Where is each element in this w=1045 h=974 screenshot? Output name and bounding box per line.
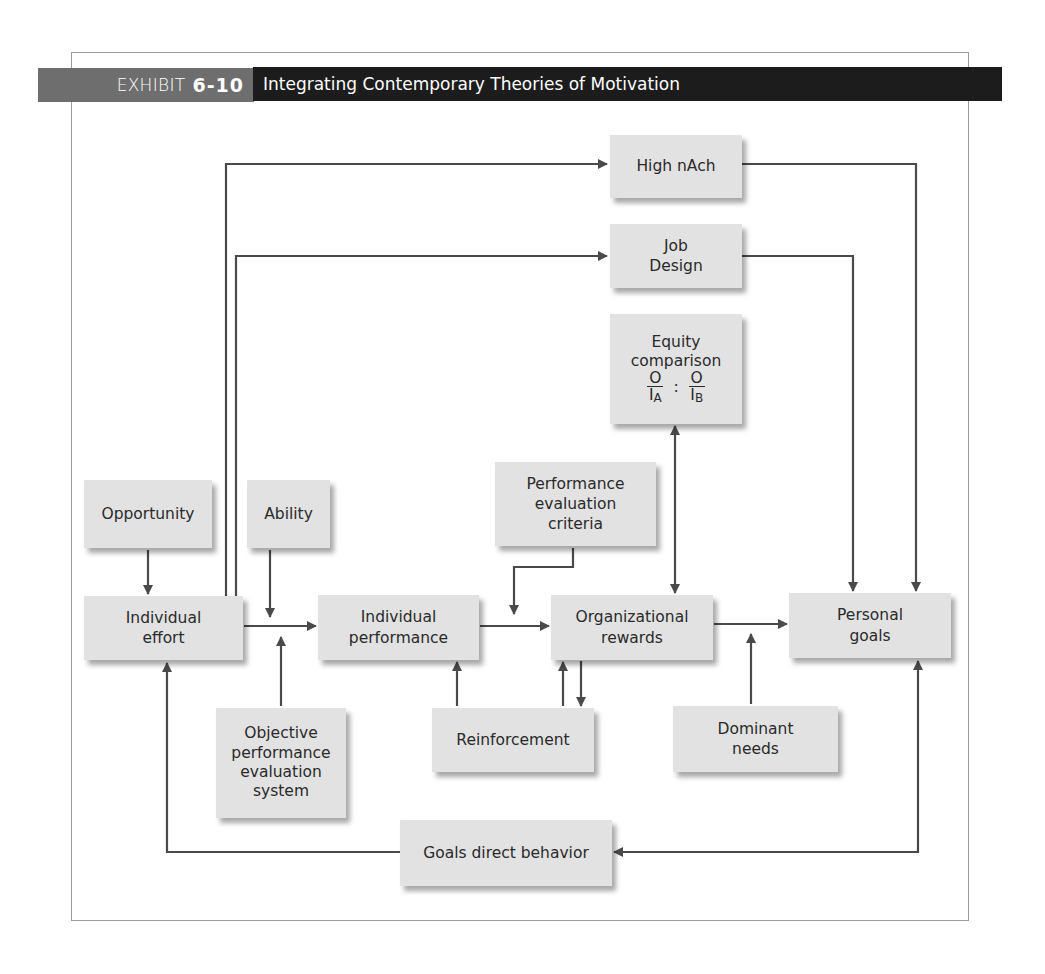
node-organizational-rewards: Organizational rewards xyxy=(551,595,713,660)
node-equity-comparison: Equity comparison O IA : O IB xyxy=(610,314,742,424)
node-label: evaluation xyxy=(535,494,617,514)
node-ability: Ability xyxy=(247,480,330,548)
node-label: rewards xyxy=(601,628,663,648)
fraction-a: O IA xyxy=(647,370,663,405)
node-personal-goals: Personal goals xyxy=(789,593,951,658)
node-job-design: Job Design xyxy=(610,224,742,288)
node-label: Opportunity xyxy=(101,504,194,524)
node-dominant-needs: Dominant needs xyxy=(673,706,838,772)
ratio-separator: : xyxy=(673,378,678,397)
node-label: Job xyxy=(664,236,688,256)
node-label: Equity xyxy=(651,333,700,352)
node-label: Performance xyxy=(526,474,624,494)
subscript-b: B xyxy=(695,391,703,405)
equity-formula: O IA : O IB xyxy=(643,370,709,405)
node-reinforcement: Reinforcement xyxy=(432,708,594,772)
node-label: comparison xyxy=(631,352,722,371)
node-label: system xyxy=(253,782,309,801)
node-label: performance xyxy=(231,744,330,763)
edge-jobdesign-goals xyxy=(742,256,853,591)
node-high-nach: High nAch xyxy=(610,135,742,198)
node-label: Goals direct behavior xyxy=(423,843,589,863)
numerator-b: O xyxy=(689,370,705,387)
fraction-b: O IB xyxy=(689,370,705,405)
node-label: Reinforcement xyxy=(456,730,569,750)
node-performance-evaluation-criteria: Performance evaluation criteria xyxy=(495,462,656,546)
node-label: evaluation xyxy=(240,763,322,782)
node-label: High nAch xyxy=(636,156,715,176)
node-goals-direct-behavior: Goals direct behavior xyxy=(400,820,612,886)
node-label: Objective xyxy=(244,724,318,743)
edge-highnach-goals xyxy=(742,164,916,591)
node-label: Ability xyxy=(264,504,313,524)
node-label: Organizational xyxy=(576,607,689,627)
subscript-a: A xyxy=(653,391,661,405)
node-label: needs xyxy=(732,739,779,759)
node-objective-performance-evaluation-system: Objective performance evaluation system xyxy=(216,708,346,818)
numerator-a: O xyxy=(647,370,663,387)
node-label: criteria xyxy=(548,514,603,534)
node-label: Design xyxy=(649,256,703,276)
node-label: Individual xyxy=(361,607,437,627)
node-label: Individual xyxy=(126,608,202,628)
node-individual-performance: Individual performance xyxy=(318,595,479,660)
node-label: goals xyxy=(849,626,890,646)
node-individual-effort: Individual effort xyxy=(84,596,243,660)
node-opportunity: Opportunity xyxy=(84,480,212,548)
node-label: Personal xyxy=(837,605,903,625)
node-label: effort xyxy=(142,628,184,648)
node-label: Dominant xyxy=(717,719,793,739)
node-label: performance xyxy=(349,628,448,648)
